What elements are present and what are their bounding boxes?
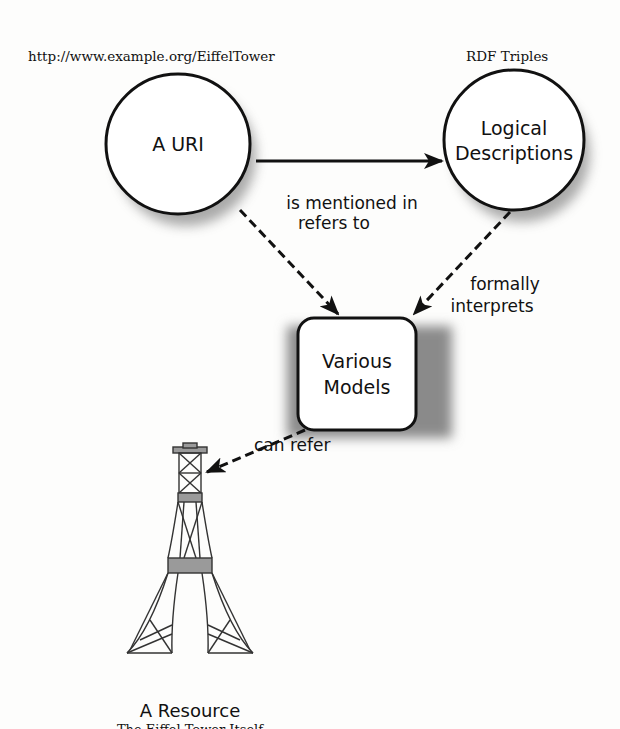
resource-subtitle: The Eiffel Tower Itself xyxy=(0,722,380,729)
is-mentioned-in-label: is mentioned in xyxy=(286,193,418,213)
eiffel-tower-icon xyxy=(127,443,253,653)
refers-to-label: refers to xyxy=(298,213,370,233)
logical-node-line2: Descriptions xyxy=(455,142,573,164)
logical-circle xyxy=(444,70,584,210)
interprets-label: interprets xyxy=(451,296,534,316)
models-box xyxy=(298,318,416,430)
edge-refers-to: refers to xyxy=(240,210,370,314)
can-refer-label: can refer xyxy=(254,435,330,455)
models-node-line2: Models xyxy=(324,376,391,398)
semantic-diagram: A URI Logical Descriptions is mentioned … xyxy=(0,0,620,729)
resource-title: A Resource xyxy=(0,700,380,721)
edge-is-mentioned-in: is mentioned in xyxy=(256,161,442,213)
logical-descriptions-node: Logical Descriptions xyxy=(444,70,590,222)
uri-node: A URI xyxy=(106,74,256,226)
formally-label: formally xyxy=(470,274,540,294)
edge-formally-interprets: formally interprets xyxy=(414,212,540,316)
edge-can-refer: can refer xyxy=(207,430,330,472)
uri-node-label: A URI xyxy=(152,133,204,155)
models-node-line1: Various xyxy=(322,350,392,372)
logical-node-line1: Logical xyxy=(481,117,548,139)
various-models-node: Various Models xyxy=(287,318,452,438)
